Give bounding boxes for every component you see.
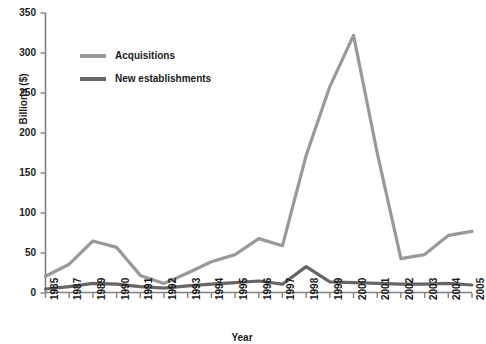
x-tick-label: 2004 (452, 278, 462, 300)
x-axis-title: Year (0, 327, 484, 344)
y-tick-label: 0 (2, 288, 36, 298)
x-tick-label: 1995 (239, 278, 249, 300)
x-tick-label: 1985 (50, 278, 60, 300)
x-tick-label: 2003 (429, 278, 439, 300)
legend-item-label: Acquisitions (115, 50, 175, 61)
y-tick-label: 50 (2, 248, 36, 258)
x-tick-label: 1990 (121, 278, 131, 300)
x-tick-label: 2000 (358, 278, 368, 300)
y-tick-label: 350 (2, 8, 36, 18)
x-tick-label: 1997 (286, 278, 296, 300)
x-tick-label: 2002 (405, 278, 415, 300)
legend-item-label: New establishments (115, 73, 211, 84)
x-tick-label: 1991 (144, 278, 154, 300)
y-tick-label: 100 (2, 208, 36, 218)
x-tick-label: 1993 (192, 278, 202, 300)
x-tick-label: 1987 (73, 278, 83, 300)
x-tick-label: 2001 (381, 278, 391, 300)
x-tick-label: 2005 (476, 278, 486, 300)
x-axis-title-text: Year (231, 332, 252, 343)
y-axis-title-text: Billions ($) (18, 73, 29, 124)
legend-item-new-establishments[interactable]: New establishments (80, 73, 211, 84)
legend-swatch-icon (80, 77, 106, 81)
y-axis-title: Billions ($) (13, 39, 31, 159)
x-tick-label: 1992 (168, 278, 178, 300)
y-tick-label: 150 (2, 168, 36, 178)
x-tick-label: 1998 (310, 278, 320, 300)
x-tick-label: 1999 (334, 278, 344, 300)
legend-item-acquisitions[interactable]: Acquisitions (80, 50, 175, 61)
legend-swatch-icon (80, 54, 106, 58)
x-tick-label: 1989 (97, 278, 107, 300)
x-tick-label: 1994 (215, 278, 225, 300)
x-tick-label: 1996 (263, 278, 273, 300)
